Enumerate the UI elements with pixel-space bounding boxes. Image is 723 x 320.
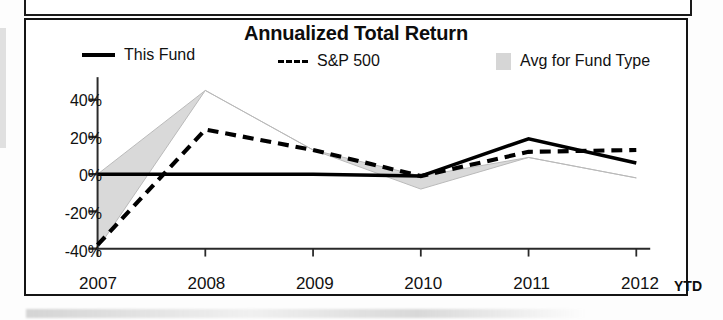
page-edge-artifact bbox=[0, 28, 6, 148]
annualized-total-return-chart-panel: Annualized Total Return This Fund S&P 50… bbox=[24, 18, 688, 296]
series-area-avg-for-fund-type bbox=[98, 90, 637, 248]
page-scan-smudge bbox=[26, 309, 586, 318]
y-axis-tick-label: -40% bbox=[65, 243, 102, 261]
x-axis-ytd-note: YTD bbox=[674, 278, 702, 294]
y-axis-tick-label: 40% bbox=[70, 92, 102, 110]
series-line-this-fund bbox=[98, 139, 637, 176]
x-axis-tick-label: 2009 bbox=[296, 274, 334, 294]
y-axis-tick-label: 20% bbox=[70, 130, 102, 148]
x-axis-tick-label: 2008 bbox=[187, 274, 225, 294]
y-axis-tick-label: -20% bbox=[65, 205, 102, 223]
x-axis-tick-marks bbox=[98, 249, 637, 257]
series-line-sp500 bbox=[98, 130, 637, 245]
y-axis-labels: -40%-20%0%20%40% bbox=[26, 20, 112, 294]
screenshot-root: Annualized Total Return This Fund S&P 50… bbox=[0, 0, 723, 320]
x-axis-tick-label: 2007 bbox=[79, 274, 117, 294]
x-axis-tick-label: 2010 bbox=[404, 274, 442, 294]
y-axis-tick-label: 0% bbox=[79, 167, 102, 185]
x-axis-labels: 200720082009201020112012 bbox=[26, 274, 686, 300]
x-axis-tick-label: 2011 bbox=[513, 274, 550, 294]
x-axis-tick-label: 2012 bbox=[621, 274, 659, 294]
panel-above-cutoff bbox=[24, 0, 692, 16]
chart-plot-area bbox=[26, 20, 686, 294]
